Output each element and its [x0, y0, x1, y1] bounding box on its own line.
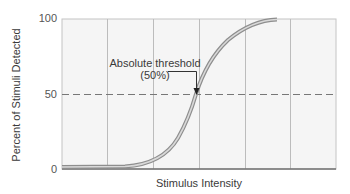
y-tick-0: 0 — [27, 163, 57, 175]
annotation-label: Absolute threshold (50%) — [108, 57, 202, 81]
annotation-line-1: Absolute threshold — [108, 57, 202, 69]
y-tick-50: 50 — [27, 88, 57, 100]
x-axis-label: Stimulus Intensity — [0, 177, 350, 189]
annotation-line-2: (50%) — [108, 69, 202, 81]
y-axis-label: Percent of Stimuli Detected — [10, 28, 22, 161]
psychometric-chart: 100 50 0 Percent of Stimuli Detected Sti… — [0, 0, 350, 194]
y-tick-100: 100 — [27, 12, 57, 24]
